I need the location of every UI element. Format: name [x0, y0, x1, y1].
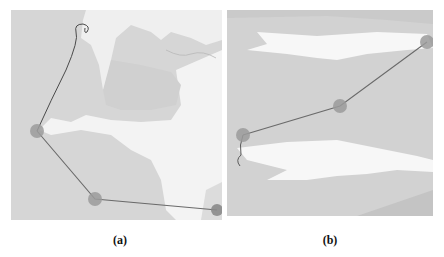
caption-b: (b)	[310, 233, 350, 248]
map-b-graphic	[227, 10, 433, 216]
waypoint-marker	[88, 192, 102, 206]
waypoint-marker	[236, 128, 250, 142]
waypoint-marker	[333, 99, 347, 113]
map-a-graphic	[11, 10, 222, 220]
map-panel-a	[11, 10, 222, 220]
map-panel-b	[227, 10, 433, 216]
caption-a: (a)	[100, 233, 140, 248]
waypoint-marker	[30, 124, 44, 138]
